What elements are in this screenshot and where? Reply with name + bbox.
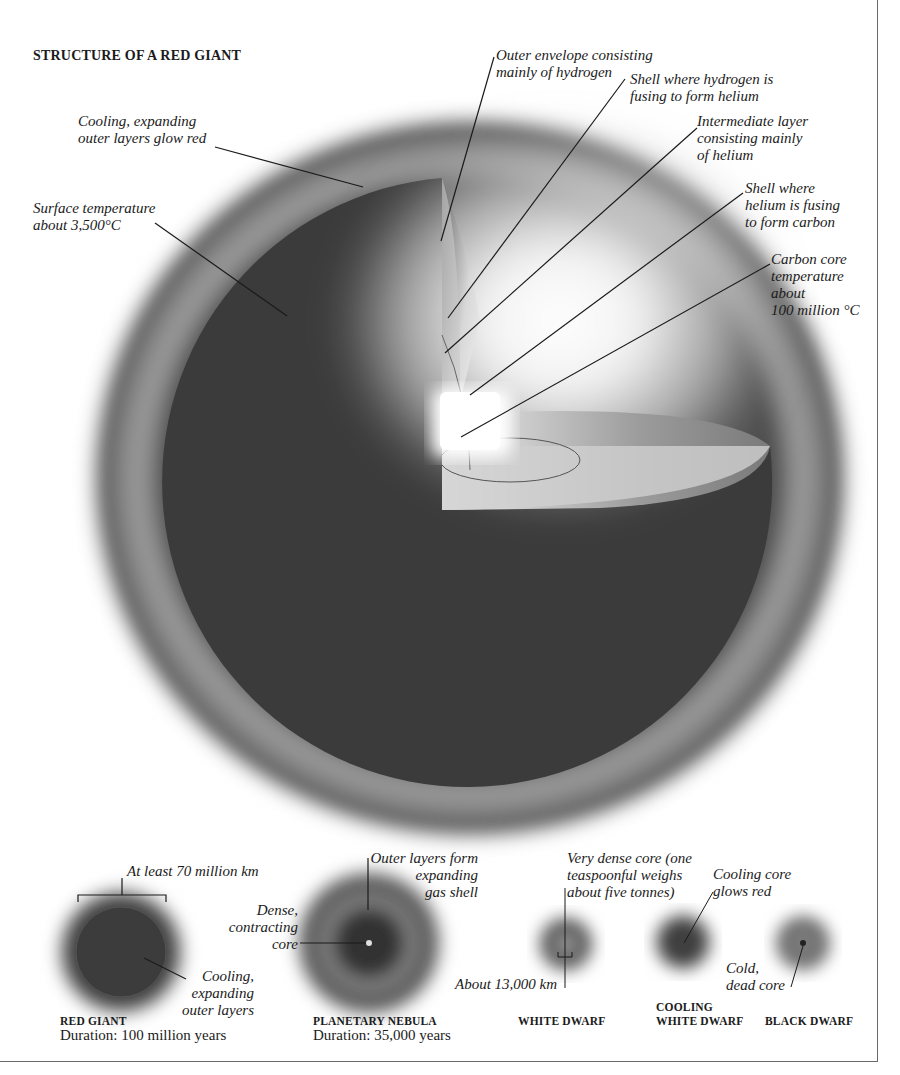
label-helium-shell: Shell where helium is fusing to form car… [745, 180, 840, 231]
label-red-giant-layers: Cooling, expanding outer layers [172, 968, 254, 1019]
label-nebula-core: Dense, contracting core [202, 902, 298, 953]
label-cooling-outer-layers: Cooling, expanding outer layers glow red [78, 113, 206, 147]
caption-cooling-white-dwarf: COOLING WHITE DWARF [656, 1000, 744, 1028]
caption-white-dwarf: WHITE DWARF [518, 1014, 606, 1028]
label-white-dwarf-size: About 13,000 km [455, 976, 557, 993]
diagram-title: STRUCTURE OF A RED GIANT [33, 48, 241, 64]
label-intermediate-layer: Intermediate layer consisting mainly of … [697, 113, 808, 164]
cooling-white-dwarf [651, 892, 715, 974]
label-cooling-core: Cooling core glows red [713, 866, 791, 900]
duration-red-giant: Duration: 100 million years [60, 1027, 226, 1044]
label-carbon-core: Carbon core temperature about 100 millio… [771, 251, 860, 319]
duration-planetary-nebula: Duration: 35,000 years [313, 1027, 451, 1044]
caption-red-giant: RED GIANT [60, 1014, 127, 1028]
caption-planetary-nebula: PLANETARY NEBULA [313, 1014, 437, 1028]
caption-black-dwarf: BLACK DWARF [765, 1014, 853, 1028]
label-surface-temperature: Surface temperature about 3,500°C [33, 200, 155, 234]
frame-border-bottom [0, 1061, 878, 1062]
diagram-canvas: STRUCTURE OF A RED GIANT Cooling, expand… [0, 0, 900, 1075]
red-giant-main [80, 106, 860, 850]
label-red-giant-size: At least 70 million km [127, 863, 259, 880]
red-giant-small [51, 878, 191, 1022]
white-dwarf [534, 888, 598, 988]
label-white-dwarf-core: Very dense core (one teaspoonful weighs … [567, 850, 692, 901]
label-nebula-shell: Outer layers form expanding gas shell [360, 850, 478, 901]
label-hydrogen-shell: Shell where hydrogen is fusing to form h… [630, 71, 773, 105]
label-dead-core: Cold, dead core [726, 960, 785, 994]
frame-border-right [877, 0, 878, 1062]
